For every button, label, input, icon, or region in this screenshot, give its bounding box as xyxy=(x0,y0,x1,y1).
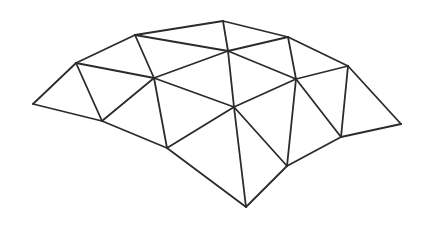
triangulated-mesh-diagram xyxy=(0,0,425,231)
background xyxy=(0,0,425,231)
